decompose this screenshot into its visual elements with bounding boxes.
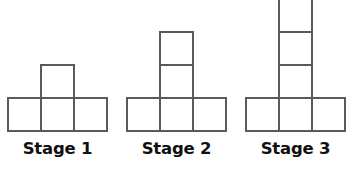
stack-square-2 <box>279 32 312 65</box>
stack-square-2 <box>160 32 193 65</box>
stack-square-1 <box>41 65 74 98</box>
base-square-3 <box>74 98 107 131</box>
base-square-1 <box>246 98 279 131</box>
stage-shape-3 <box>244 0 347 133</box>
base-square-1 <box>127 98 160 131</box>
base-square-3 <box>193 98 226 131</box>
stage-label-1: Stage 1 <box>8 141 107 158</box>
base-square-1 <box>8 98 41 131</box>
stage-shape-2 <box>125 30 228 133</box>
base-square-2 <box>160 98 193 131</box>
base-square-2 <box>279 98 312 131</box>
stage-label-2: Stage 2 <box>127 141 226 158</box>
base-square-2 <box>41 98 74 131</box>
stage-label-3: Stage 3 <box>246 141 345 158</box>
stage-shape-1 <box>6 63 109 133</box>
stack-square-3 <box>279 0 312 32</box>
stack-square-1 <box>160 65 193 98</box>
base-square-3 <box>312 98 345 131</box>
stage-sequence-figure: Stage 1Stage 2Stage 3 <box>0 0 352 172</box>
stack-square-1 <box>279 65 312 98</box>
